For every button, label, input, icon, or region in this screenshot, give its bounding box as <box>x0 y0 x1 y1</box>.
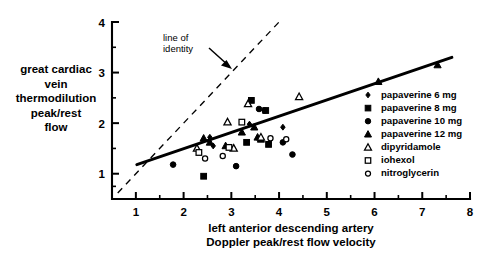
x-tick-label: 8 <box>467 206 474 218</box>
x-tick-label: 2 <box>180 206 186 218</box>
legend-label: papaverine 12 mg <box>381 128 462 139</box>
data-point <box>296 93 303 100</box>
x-tick-label: 6 <box>371 206 377 218</box>
data-point <box>290 152 296 158</box>
legend-marker <box>365 118 370 123</box>
y-axis-title-line: great cardiac <box>20 63 92 75</box>
legend-marker <box>366 92 370 98</box>
x-tick-label: 4 <box>276 206 283 218</box>
legend-item[interactable]: nitroglycerin <box>365 167 439 178</box>
data-point <box>226 145 232 151</box>
annotation-line-of-identity: line ofidentity <box>163 32 232 69</box>
x-tick-label: 5 <box>324 206 331 218</box>
data-point <box>268 136 273 141</box>
legend-label: dipyridamole <box>381 141 441 152</box>
y-axis-title: great cardiacveinthermodilutionpeak/rest… <box>16 63 97 133</box>
plot-canvas: 123456781234line ofidentityleft anterior… <box>0 0 498 262</box>
annotation-text-line: identity <box>163 43 193 54</box>
data-point <box>233 163 239 169</box>
scatter-plot-figure: 123456781234line ofidentityleft anterior… <box>0 0 498 262</box>
legend: papaverine 6 mgpapaverine 8 mgpapaverine… <box>365 89 463 179</box>
legend-marker <box>365 171 370 176</box>
legend-label: papaverine 8 mg <box>381 102 457 113</box>
x-tick-label: 1 <box>133 206 140 218</box>
legend-label: papaverine 6 mg <box>381 89 457 100</box>
y-tick-label: 3 <box>99 67 105 79</box>
legend-label: nitroglycerin <box>381 167 439 178</box>
annotation-text-line: line of <box>163 32 189 43</box>
legend-item[interactable]: papaverine 12 mg <box>365 128 463 139</box>
y-axis-title-line: peak/rest <box>31 107 82 119</box>
data-point <box>220 153 225 158</box>
legend-item[interactable]: papaverine 6 mg <box>366 89 457 100</box>
legend-marker <box>365 131 372 137</box>
data-point <box>202 156 207 161</box>
data-point <box>196 150 202 156</box>
data-point <box>266 142 272 148</box>
x-axis-title-line: Doppler peak/rest flow velocity <box>206 236 376 248</box>
legend-item[interactable]: iohexol <box>365 154 414 165</box>
legend-item[interactable]: dipyridamole <box>365 141 441 152</box>
legend-label: iohexol <box>381 154 415 165</box>
x-axis-title: left anterior descending arteryDoppler p… <box>206 222 376 248</box>
data-point <box>170 162 176 168</box>
legend-item[interactable]: papaverine 10 mg <box>365 115 462 126</box>
data-point <box>200 135 207 142</box>
line-of-identity <box>118 21 280 193</box>
data-point <box>281 124 285 130</box>
y-tick-label: 4 <box>99 17 106 29</box>
data-point <box>256 106 262 112</box>
y-tick-label: 1 <box>99 168 106 180</box>
legend-item[interactable]: papaverine 8 mg <box>365 102 457 113</box>
x-axis-title-line: left anterior descending artery <box>208 222 374 234</box>
y-tick-label: 2 <box>99 118 105 130</box>
legend-marker <box>365 105 371 111</box>
legend-label: papaverine 10 mg <box>381 115 462 126</box>
y-axis-title-line: thermodilution <box>16 92 97 104</box>
data-point <box>284 137 289 142</box>
legend-marker <box>365 158 370 163</box>
y-axis-title-line: flow <box>45 121 68 133</box>
data-point <box>224 118 231 125</box>
x-tick-label: 7 <box>419 206 425 218</box>
x-tick-label: 3 <box>228 206 234 218</box>
legend-marker <box>365 144 372 150</box>
data-point <box>201 173 207 179</box>
data-point <box>244 139 250 145</box>
data-point <box>262 108 268 114</box>
annotation-arrow-head <box>221 60 232 69</box>
y-axis-title-line: vein <box>44 78 67 90</box>
data-point <box>239 119 245 125</box>
